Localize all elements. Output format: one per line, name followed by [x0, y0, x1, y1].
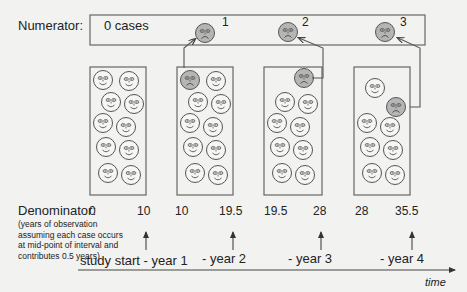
denominator-start-year3: 19.5 — [264, 204, 287, 218]
smiley-face-icon — [186, 164, 205, 183]
smiley-face-icon — [117, 118, 136, 137]
smiley-face-icon — [212, 95, 231, 114]
case-number-3: 3 — [400, 15, 407, 29]
smiley-face-icon — [271, 138, 290, 157]
smiley-face-icon — [381, 118, 400, 137]
zero-cases-label: 0 cases — [104, 18, 149, 33]
smiley-face-icon — [189, 93, 208, 112]
smiley-face-icon — [386, 166, 405, 185]
denominator-start-year1: 0 — [89, 204, 96, 218]
smiley-face-icon — [273, 164, 292, 183]
smiley-face-icon — [94, 114, 113, 133]
timeline-label-year3: - year 3 — [288, 251, 332, 266]
time-axis-label: time — [425, 276, 446, 288]
smiley-face-icon — [276, 93, 295, 112]
denominator-end-year1: 10 — [137, 204, 150, 218]
denominator-start-year4: 28 — [355, 204, 368, 218]
smiley-face-icon — [209, 166, 228, 185]
smiley-face-icon — [299, 95, 318, 114]
case-number-1: 1 — [222, 15, 229, 29]
smiley-face-icon — [363, 164, 382, 183]
smiley-face-icon — [207, 72, 226, 91]
smiley-face-icon — [204, 118, 223, 137]
denominator-start-year2: 10 — [175, 204, 188, 218]
timeline-label-year4: - year 4 — [380, 251, 424, 266]
numerator-label: Numerator: — [18, 18, 83, 33]
case-arrow-1 — [184, 39, 195, 68]
group-box-year4 — [354, 67, 410, 195]
smiley-face-icon — [294, 141, 313, 160]
timeline-label-year1: study start - year 1 — [80, 253, 188, 268]
smiley-face-icon — [102, 93, 121, 112]
group-box-year2 — [177, 67, 233, 195]
smiley-face-icon — [384, 141, 403, 160]
sad-face-icon — [387, 98, 406, 117]
smiley-face-icon — [181, 114, 200, 133]
smiley-face-icon — [122, 166, 141, 185]
smiley-face-icon — [207, 141, 226, 160]
group-box-year3 — [264, 67, 322, 195]
smiley-face-icon — [291, 118, 310, 137]
smiley-face-icon — [120, 72, 139, 91]
smiley-face-icon — [97, 138, 116, 157]
sad-face-icon — [279, 23, 298, 42]
smiley-face-icon — [125, 95, 144, 114]
case-arrow-3 — [398, 38, 420, 107]
sad-face-icon — [181, 71, 200, 90]
sad-face-icon — [295, 69, 314, 88]
smiley-face-icon — [94, 71, 113, 90]
smiley-face-icon — [268, 114, 287, 133]
sad-face-icon — [196, 24, 215, 43]
denominator-end-year4: 35.5 — [395, 204, 418, 218]
smiley-face-icon — [184, 138, 203, 157]
smiley-face-icon — [358, 114, 377, 133]
denominator-end-year2: 19.5 — [219, 204, 242, 218]
smiley-face-icon — [296, 166, 315, 185]
denominator-end-year3: 28 — [313, 204, 326, 218]
smiley-face-icon — [99, 164, 118, 183]
denominator-label: Denominator: — [18, 203, 96, 218]
timeline-label-year2: - year 2 — [202, 251, 246, 266]
case-number-2: 2 — [302, 15, 309, 29]
smiley-face-icon — [120, 141, 139, 160]
smiley-face-icon — [366, 79, 385, 98]
smiley-face-icon — [361, 138, 380, 157]
group-box-year1 — [90, 67, 146, 195]
sad-face-icon — [376, 23, 395, 42]
